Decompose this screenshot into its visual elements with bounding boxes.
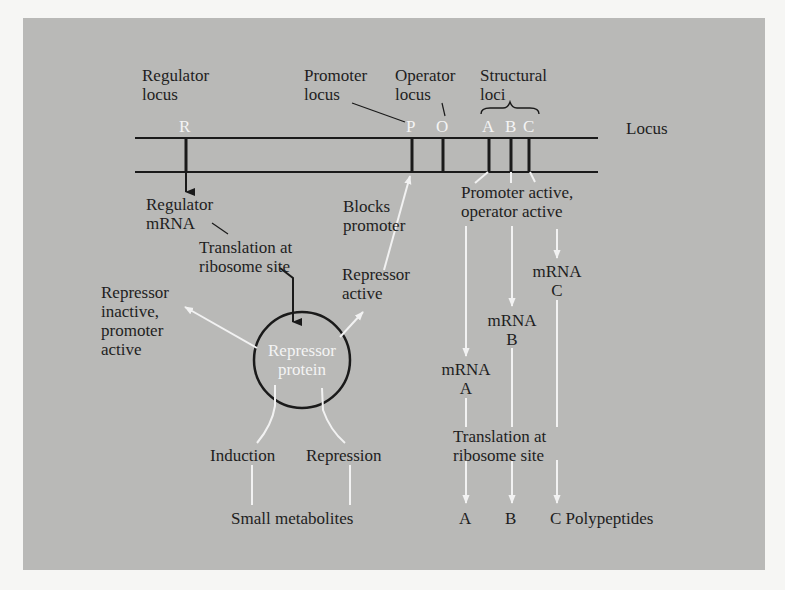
mrna-a-label: mRNAA (431, 360, 501, 398)
small-metabolites-label: Small metabolites (231, 509, 353, 528)
repression-label: Repression (306, 446, 382, 465)
gene-letter-c: C (523, 117, 534, 136)
locus-label: Locus (626, 119, 668, 138)
gene-letter-b: B (505, 117, 516, 136)
translation-label-right: Translation atribosome site (453, 427, 546, 465)
structural-loci-label: Structuralloci (480, 66, 547, 104)
repressor-inactive-label: Repressorinactive,promoteractive (101, 283, 169, 359)
repressor-protein-label: Repressorprotein (254, 341, 350, 379)
repressor-active-label: Repressoractive (342, 265, 410, 303)
induction-label: Induction (210, 446, 275, 465)
promoter-locus-label: Promoterlocus (304, 66, 367, 104)
operator-locus-label: Operatorlocus (395, 66, 455, 104)
gene-letter-r: R (179, 117, 190, 136)
gene-bars (186, 138, 529, 172)
translation-label-left: Translation atribosome site (199, 238, 292, 276)
metabolite-lines (252, 385, 350, 505)
polypeptide-b-label: B (505, 509, 516, 528)
mrna-c-label: mRNAC (522, 262, 592, 300)
gene-letter-p: P (406, 117, 415, 136)
promoter-active-label: Promoter active,operator active (461, 183, 573, 221)
gene-letter-o: O (436, 117, 448, 136)
gene-letter-a: A (482, 117, 494, 136)
polypeptide-a-label: A (459, 509, 471, 528)
polypeptide-c-label: C Polypeptides (550, 509, 653, 528)
mrna-b-label: mRNAB (477, 311, 547, 349)
blocks-promoter-label: Blockspromoter (343, 197, 405, 235)
regulator-locus-label: Regulatorlocus (142, 66, 209, 104)
regulator-mrna-label: RegulatormRNA (146, 195, 213, 233)
